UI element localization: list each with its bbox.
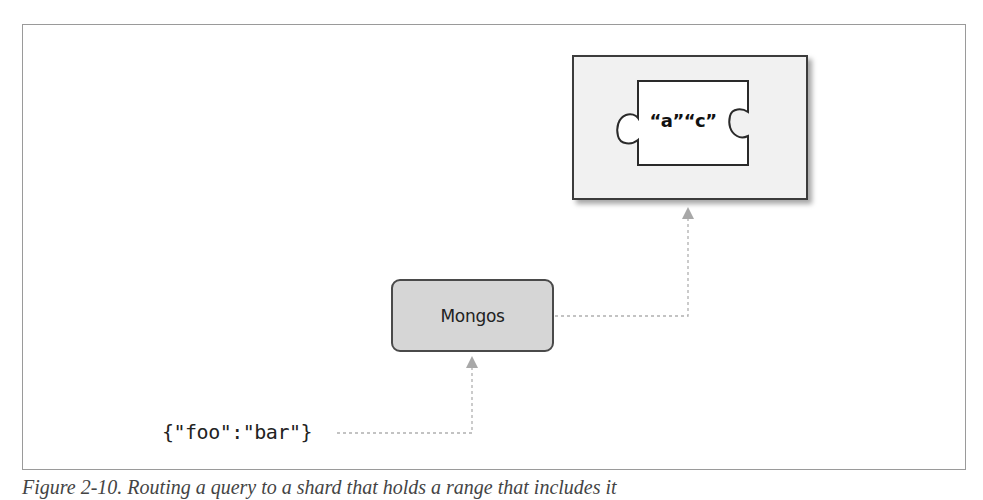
arrowhead-up-icon [466,356,478,368]
chunk-range-label: “a”“c” [638,110,728,131]
mongos-router-box: Mongos [391,279,554,352]
mongos-label: Mongos [440,306,504,326]
connector-router-to-shard [555,218,688,316]
arrowhead-up-icon [682,207,694,219]
figure-caption: Figure 2-10. Routing a query to a shard … [22,474,617,500]
connector-query-to-router [337,367,472,433]
query-document: {"foo":"bar"} [162,418,312,446]
